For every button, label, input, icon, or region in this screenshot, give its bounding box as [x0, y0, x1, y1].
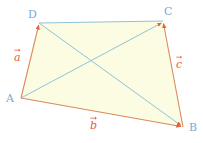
vector-label-a-text: a [14, 51, 21, 64]
vertex-label-b: B [189, 122, 197, 133]
quadrilateral-fill [21, 21, 183, 127]
vector-label-c: c [176, 59, 182, 70]
vertex-label-c: C [164, 6, 172, 17]
vector-label-b: b [90, 120, 97, 131]
vertex-label-d: D [28, 9, 37, 20]
vertex-label-a: A [6, 93, 14, 104]
vector-label-a: a [14, 52, 21, 63]
vector-label-b-text: b [90, 119, 97, 132]
diagram-canvas: A B C D a b c [0, 0, 203, 143]
vector-label-c-text: c [176, 58, 182, 71]
vector-quadrilateral-figure [0, 0, 203, 143]
